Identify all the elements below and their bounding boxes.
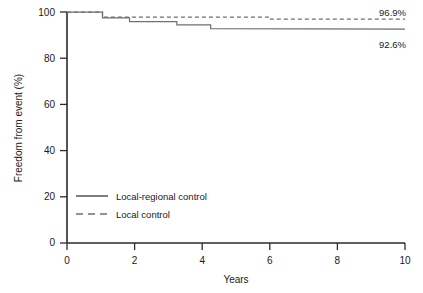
y-tick-label-100: 100 xyxy=(38,7,55,18)
endpoint-label-local-control: 96.9% xyxy=(379,7,406,18)
series-group xyxy=(67,12,405,29)
x-axis-ticks xyxy=(67,243,405,250)
x-tick-label-6: 6 xyxy=(267,255,273,266)
legend-label-local-regional-control: Local-regional control xyxy=(116,191,207,202)
y-tick-label-20: 20 xyxy=(44,191,56,202)
x-tick-label-4: 4 xyxy=(199,255,205,266)
y-tick-label-0: 0 xyxy=(49,237,55,248)
x-tick-label-10: 10 xyxy=(399,255,411,266)
legend-label-local-control: Local control xyxy=(116,209,170,220)
x-axis-title: Years xyxy=(223,274,248,285)
x-tick-label-8: 8 xyxy=(335,255,341,266)
series-line-local-regional-control xyxy=(67,12,405,29)
x-tick-label-2: 2 xyxy=(132,255,138,266)
x-tick-label-0: 0 xyxy=(64,255,70,266)
kaplan-meier-chart: 0 20 40 60 80 100 0 2 4 6 8 10 Years Fre… xyxy=(0,0,423,293)
y-tick-label-40: 40 xyxy=(44,145,56,156)
y-tick-label-60: 60 xyxy=(44,99,56,110)
chart-legend: Local-regional control Local control xyxy=(76,191,207,220)
endpoint-label-local-regional-control: 92.6% xyxy=(379,39,406,50)
y-axis-title: Freedom from event (%) xyxy=(13,74,24,182)
y-axis-ticks xyxy=(60,12,67,243)
y-tick-label-80: 80 xyxy=(44,53,56,64)
chart-canvas: 0 20 40 60 80 100 0 2 4 6 8 10 Years Fre… xyxy=(0,0,423,293)
